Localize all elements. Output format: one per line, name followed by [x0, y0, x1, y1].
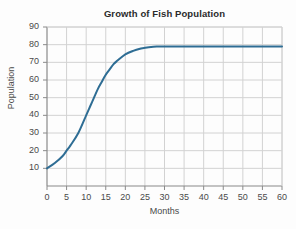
x-tick-label: 10	[77, 192, 95, 202]
x-tick-label: 40	[195, 192, 213, 202]
y-tick-label: 80	[19, 39, 39, 49]
x-tick-label: 60	[273, 192, 291, 202]
y-tick-label: 20	[19, 145, 39, 155]
y-tick-label: 10	[19, 162, 39, 172]
x-tick-label: 25	[136, 192, 154, 202]
tick-marks	[43, 27, 282, 190]
chart-container: Growth of Fish Population Population Mon…	[0, 0, 296, 229]
y-tick-label: 50	[19, 92, 39, 102]
y-tick-label: 70	[19, 56, 39, 66]
x-tick-label: 0	[38, 192, 56, 202]
x-tick-label: 20	[116, 192, 134, 202]
y-tick-label: 90	[19, 21, 39, 31]
x-tick-label: 5	[58, 192, 76, 202]
x-tick-label: 50	[234, 192, 252, 202]
x-tick-label: 30	[156, 192, 174, 202]
x-tick-label: 15	[97, 192, 115, 202]
y-tick-label: 40	[19, 109, 39, 119]
y-tick-label: 60	[19, 74, 39, 84]
grid-lines	[47, 27, 282, 186]
x-tick-label: 45	[214, 192, 232, 202]
y-tick-label: 30	[19, 127, 39, 137]
x-tick-label: 55	[253, 192, 271, 202]
x-tick-label: 35	[175, 192, 193, 202]
